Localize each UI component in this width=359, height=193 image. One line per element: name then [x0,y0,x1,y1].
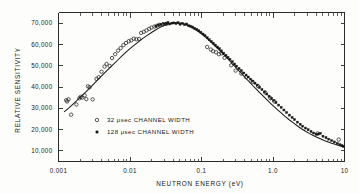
data-point-filled [261,89,263,91]
data-point-filled [256,84,258,86]
data-point-filled [240,70,242,72]
data-point-filled [210,40,212,42]
x-tick-label: 0.1 [197,167,207,174]
data-point-filled [202,33,204,35]
data-point-filled [278,104,280,106]
plot-frame [59,13,345,162]
data-point-filled [299,123,301,125]
x-axis-title: NEUTRON ENERGY (eV) [156,180,243,188]
data-point-filled [225,54,227,56]
data-point-filled [194,27,196,29]
y-tick-label: 40,000 [31,83,53,90]
data-point-filled [305,127,307,129]
data-point-filled [177,22,179,24]
data-point-filled [160,23,162,25]
data-point-open [85,97,88,100]
y-tick-label: 10,000 [31,147,53,154]
data-point-filled [218,48,220,50]
data-point-filled [208,39,210,41]
data-point-filled [206,37,208,39]
y-axis-title-label: RELATIVE SENSITIVITY [14,47,21,132]
data-point-filled [296,121,298,123]
data-point-filled [319,132,321,134]
data-point-filled [163,23,165,25]
data-point-filled [173,22,175,24]
data-point-filled [252,80,254,82]
data-point-filled [291,116,293,118]
data-point-filled [313,132,315,134]
data-point-filled [336,142,338,144]
y-tick-label: 60,000 [31,41,53,48]
data-point-filled [234,63,236,65]
data-point-filled [155,25,157,27]
x-axis-tick-labels: 0.0010.010.11.010 [50,167,349,174]
data-point-open [205,45,208,48]
data-point-filled [204,35,206,37]
data-point-filled [268,95,270,97]
x-tick-label: 10 [341,167,349,174]
data-point-open [75,103,78,106]
x-axis-title-label: NEUTRON ENERGY (eV) [156,180,243,188]
data-point-open [105,62,108,65]
data-point-open [119,46,122,49]
data-point-filled [342,145,344,147]
data-point-filled [243,72,245,74]
x-tick-label: 0.001 [50,167,68,174]
data-point-open [91,98,94,101]
y-tick-label: 30,000 [31,104,53,111]
data-point-filled [339,144,341,146]
data-point-filled [307,129,309,131]
data-point-open [229,64,232,67]
data-point-filled [294,119,296,121]
data-point-filled [273,99,275,101]
data-point-filled [288,114,290,116]
data-point-open [100,70,103,73]
data-point-filled [280,106,282,108]
data-point-filled [223,52,225,54]
data-point-filled [315,133,317,135]
data-point-filled [236,65,238,67]
x-axis-ticks [59,13,345,162]
data-point-filled [231,61,233,63]
legend-label: 128 μsec CHANNEL WIDTH [107,128,194,135]
data-point-filled [214,44,216,46]
chart-legend: 32 μsec CHANNEL WIDTH128 μsec CHANNEL WI… [95,116,194,135]
y-tick-label: 70,000 [31,19,53,26]
data-point-filled [171,22,173,24]
data-point-open [223,56,226,59]
data-point-filled [254,82,256,84]
data-point-filled [238,67,240,69]
y-axis-title: RELATIVE SENSITIVITY [14,47,21,132]
data-point-filled [184,24,186,26]
data-point-filled [310,130,312,132]
y-axis-tick-labels: 10,00020,00030,00040,00050,00060,00070,0… [31,19,53,154]
data-point-filled [245,74,247,76]
data-point-filled [286,112,288,114]
data-point-filled [317,133,319,135]
data-point-filled [283,109,285,111]
x-tick-label: 1.0 [268,167,278,174]
data-point-filled [250,78,252,80]
data-point-filled [322,135,324,137]
x-tick-label: 0.01 [123,167,137,174]
data-point-filled [259,86,261,88]
legend-label: 32 μsec CHANNEL WIDTH [107,116,190,123]
figure-container: 10,00020,00030,00040,00050,00060,00070,0… [0,0,359,193]
y-tick-label: 20,000 [31,126,53,133]
data-point-filled [328,138,330,140]
data-point-filled [189,25,191,27]
y-axis-ticks [59,23,345,151]
data-point-open [110,56,113,59]
data-point-filled [181,22,183,24]
data-point-filled [169,23,171,25]
data-point-filled [192,26,194,28]
data-point-filled [325,137,327,139]
data-point-filled [216,46,218,48]
data-point-filled [157,24,159,26]
data-point-filled [333,141,335,143]
data-point-filled [196,28,198,30]
y-tick-label: 50,000 [31,62,53,69]
data-point-filled [179,23,181,25]
data-point-filled [302,125,304,127]
data-point-filled [186,23,188,25]
